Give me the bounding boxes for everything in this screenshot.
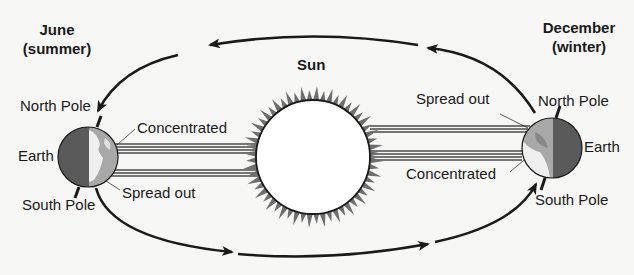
december-earth-label: Earth	[584, 138, 620, 155]
sun	[256, 100, 370, 214]
june-south-pole-label: South Pole	[22, 196, 95, 213]
december-spread-out-label: Spread out	[416, 90, 489, 107]
sun-label: Sun	[297, 55, 325, 74]
sun-rays-december	[370, 126, 530, 160]
june-season: (summer)	[22, 39, 92, 58]
december-south-pole-label: South Pole	[535, 191, 608, 208]
june-spread-out-label: Spread out	[122, 184, 195, 201]
june-month: June	[22, 20, 92, 39]
december-heading: December (winter)	[524, 18, 634, 56]
december-concentrated-label: Concentrated	[406, 165, 496, 182]
december-north-pole-label: North Pole	[538, 92, 609, 109]
december-season: (winter)	[524, 37, 634, 56]
june-earth-label: Earth	[18, 147, 54, 164]
december-month: December	[524, 18, 634, 37]
june-concentrated-label: Concentrated	[137, 119, 227, 136]
june-north-pole-label: North Pole	[20, 97, 91, 114]
june-heading: June (summer)	[22, 20, 92, 58]
earth-december	[500, 106, 582, 190]
sun-rays-june	[100, 144, 258, 176]
